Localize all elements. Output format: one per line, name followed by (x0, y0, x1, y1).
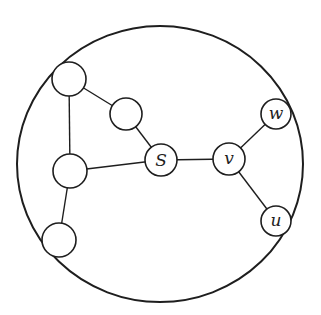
node-v-label: v (224, 148, 234, 168)
node-u-label: u (271, 210, 282, 230)
node-n4 (42, 223, 76, 257)
node-n2 (110, 98, 142, 130)
node-s-label: S (155, 150, 167, 170)
node-n1 (52, 62, 86, 96)
graph-diagram: S v w u (0, 0, 321, 315)
node-n3 (53, 154, 87, 188)
node-w-label: w (269, 103, 284, 123)
nodes: S v w u (42, 62, 291, 257)
